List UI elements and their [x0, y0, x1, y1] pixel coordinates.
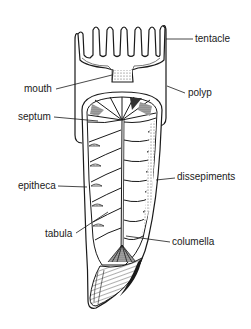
leader-polyp: [167, 86, 185, 93]
leader-epitheca: [58, 186, 87, 187]
label-polyp: polyp: [188, 87, 212, 99]
corallite: [82, 92, 162, 308]
label-mouth: mouth: [24, 83, 52, 95]
coral-diagram: tentacle mouth polyp septum dissepiments…: [0, 0, 251, 329]
leader-mouth: [56, 75, 112, 89]
label-tentacle: tentacle: [195, 33, 230, 45]
label-septum: septum: [18, 111, 51, 123]
label-columella: columella: [172, 236, 214, 248]
label-dissepiments: dissepiments: [177, 171, 235, 183]
leader-dissepiments: [156, 178, 175, 180]
label-epitheca: epitheca: [18, 180, 56, 192]
coral-illustration: [0, 0, 251, 329]
tentacles: [78, 26, 165, 82]
label-tabula: tabula: [45, 228, 72, 240]
